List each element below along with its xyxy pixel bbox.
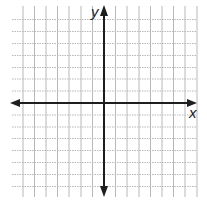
y-axis-down-arrow-icon (100, 186, 108, 197)
y-axis-up-arrow-icon (100, 5, 108, 16)
x-axis-left-arrow-icon (10, 99, 20, 107)
y-axis (100, 5, 108, 197)
coordinate-plane: y x (0, 0, 207, 201)
y-axis-label: y (90, 3, 100, 20)
x-axis-label: x (188, 104, 197, 121)
